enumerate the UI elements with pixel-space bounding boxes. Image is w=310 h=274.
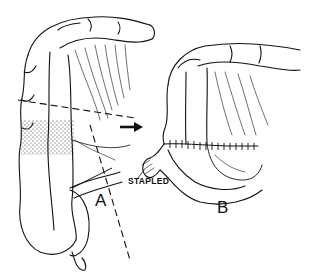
illustration-canvas [0,0,310,274]
panel-label-b: B [217,199,228,216]
stapled-label: STAPLED [128,177,169,186]
right-arrow-icon [120,122,143,132]
panel-label-a: A [95,192,106,209]
resection-zone-shading [21,120,74,155]
suture-line [170,140,254,150]
